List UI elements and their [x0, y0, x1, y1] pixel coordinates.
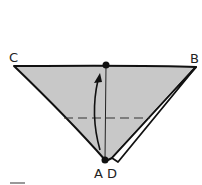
bottom-point-dot	[102, 157, 109, 164]
label-c: C	[9, 50, 18, 65]
label-a: A	[94, 166, 103, 181]
origami-diagram: C B A D	[0, 0, 202, 185]
top-point-dot	[103, 62, 110, 69]
label-b: B	[190, 51, 199, 66]
label-d: D	[107, 166, 117, 181]
